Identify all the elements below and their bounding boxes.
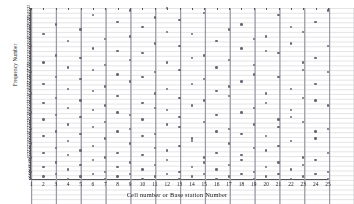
scatter-point	[178, 116, 180, 118]
scatter-point	[166, 31, 168, 33]
scatter-point	[104, 137, 106, 139]
scatter-point	[154, 92, 156, 94]
scatter-point	[154, 175, 156, 177]
y-axis-title: Frequency Number	[12, 29, 18, 101]
scatter-point	[277, 126, 279, 128]
x-tick-label: 25	[325, 179, 330, 187]
scatter-point	[240, 173, 242, 175]
scatter-point	[203, 12, 205, 14]
scatter-point	[42, 118, 44, 120]
scatter-point	[92, 145, 94, 147]
scatter-point	[92, 69, 94, 71]
scatter-point	[265, 135, 267, 137]
scatter-point	[314, 57, 316, 59]
x-tick-mark	[192, 8, 193, 10]
scatter-point	[191, 175, 193, 177]
scatter-points-layer	[31, 8, 328, 179]
scatter-point	[240, 133, 242, 135]
scatter-point	[67, 168, 69, 170]
scatter-point	[141, 76, 143, 78]
scatter-point	[290, 116, 292, 118]
x-tick-label: 16	[214, 179, 219, 187]
scatter-point	[302, 121, 304, 123]
scatter-point	[203, 99, 205, 101]
scatter-point	[240, 23, 242, 25]
scatter-point	[166, 159, 168, 161]
scatter-point	[55, 130, 57, 132]
scatter-point	[42, 166, 44, 168]
scatter-point	[154, 147, 156, 149]
scatter-point	[191, 33, 193, 35]
scatter-point	[92, 90, 94, 92]
scatter-point	[141, 154, 143, 156]
scatter-point	[55, 147, 57, 149]
scatter-point	[141, 118, 143, 120]
scatter-point	[203, 78, 205, 80]
scatter-point	[228, 85, 230, 87]
x-tick-mark	[316, 8, 317, 10]
scatter-point	[55, 54, 57, 56]
scatter-point	[178, 97, 180, 99]
x-tick-mark	[217, 8, 218, 10]
scatter-point	[203, 173, 205, 175]
x-tick-label: 6	[92, 179, 95, 187]
scatter-point	[154, 71, 156, 73]
x-tick-mark	[81, 8, 82, 10]
x-tick-mark	[105, 8, 106, 10]
scatter-point	[253, 147, 255, 149]
x-tick-mark	[118, 8, 119, 10]
scatter-point	[215, 168, 217, 170]
scatter-point	[253, 107, 255, 109]
scatter-point	[277, 173, 279, 175]
x-tick-mark	[291, 8, 292, 10]
scatter-point	[104, 64, 106, 66]
plot-frame: 1234567891011121314151617181920212223242…	[30, 8, 328, 180]
scatter-point	[92, 173, 94, 175]
scatter-point	[42, 175, 44, 177]
scatter-point	[55, 76, 57, 78]
scatter-point	[253, 64, 255, 66]
x-tick-mark	[130, 8, 131, 10]
scatter-point	[42, 102, 44, 104]
x-tick-label: 13	[177, 179, 182, 187]
scatter-point	[240, 154, 242, 156]
scatter-point	[116, 111, 118, 113]
scatter-point	[154, 42, 156, 44]
scatter-point	[265, 149, 267, 151]
scatter-point	[228, 28, 230, 30]
chart-figure: Frequency Number 12345678910111213141516…	[0, 0, 354, 204]
scatter-point	[277, 14, 279, 16]
x-tick-label: 20	[263, 179, 268, 187]
x-tick-mark	[142, 8, 143, 10]
scatter-point	[79, 28, 81, 30]
scatter-point	[178, 126, 180, 128]
x-tick-mark	[56, 8, 57, 10]
scatter-point	[215, 130, 217, 132]
scatter-point	[302, 175, 304, 177]
scatter-point	[79, 149, 81, 151]
scatter-point	[116, 21, 118, 23]
scatter-point	[290, 88, 292, 90]
x-tick-label: 24	[313, 179, 318, 187]
scatter-point	[116, 95, 118, 97]
scatter-point	[55, 173, 57, 175]
scatter-point	[277, 76, 279, 78]
x-tick-label: 3	[54, 179, 57, 187]
x-axis-title: Cell number or Base station Number	[0, 191, 354, 198]
x-tick-label: 11	[152, 179, 157, 187]
scatter-point	[302, 156, 304, 158]
scatter-point	[228, 95, 230, 97]
scatter-point	[141, 168, 143, 170]
x-tick-label: 18	[239, 179, 244, 187]
scatter-point	[104, 156, 106, 158]
scatter-point	[104, 85, 106, 87]
x-tick-mark	[93, 8, 94, 10]
scatter-point	[240, 159, 242, 161]
x-tick-label: 23	[301, 179, 306, 187]
scatter-point	[314, 99, 316, 101]
x-tick-label: 7	[104, 179, 107, 187]
scatter-point	[55, 161, 57, 163]
scatter-point	[67, 107, 69, 109]
scatter-point	[215, 90, 217, 92]
scatter-point	[265, 92, 267, 94]
